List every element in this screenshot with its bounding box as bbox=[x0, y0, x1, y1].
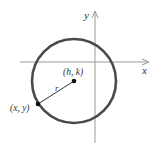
center-point bbox=[72, 79, 77, 84]
point-label: (x, y) bbox=[10, 103, 30, 114]
diagram-canvas: y x (h, k) r (x, y) bbox=[0, 0, 162, 151]
radius-label: r bbox=[55, 83, 59, 93]
x-axis-label: x bbox=[141, 64, 147, 76]
circle-point bbox=[36, 102, 41, 107]
center-label: (h, k) bbox=[63, 67, 83, 78]
y-axis-label: y bbox=[83, 9, 89, 21]
circle-diagram: y x (h, k) r (x, y) bbox=[0, 0, 162, 151]
